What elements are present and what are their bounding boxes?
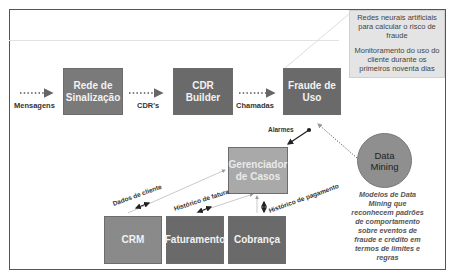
node-rede-sinalizacao: Rede de Sinalização [63,68,123,115]
label-alarmes: Alarmes [268,126,294,133]
double-arrow-dados [136,203,149,208]
note-data-mining: Modelos de Data Mining que reconhecem pa… [350,190,425,262]
node-cobranca: Cobrança [228,216,286,264]
node-faturamento: Faturamento [166,216,224,264]
note-connector [285,14,349,68]
node-crm: CRM [104,216,162,264]
label-mensagens: Mensagens [14,101,55,110]
node-fraude-de-uso: Fraude de Uso [283,68,341,115]
label-chamadas: Chamadas [236,101,274,110]
label-cdrs: CDR's [137,101,159,110]
note-redes-neurais: Redes neurais artificiais para calcular … [352,13,442,40]
data-mining-label: Data Mining [368,150,402,172]
node-cdr-builder: CDR Builder [173,68,233,115]
note-monitoramento: Monitoramento do uso do cliente durante … [352,46,442,73]
arrow-data-mining [318,124,357,158]
node-data-mining: Data Mining [357,133,412,188]
double-arrow-fatura [198,207,211,212]
node-gerenciador-de-casos: Gerenciador de Casos [228,147,288,194]
fraude-notes: Redes neurais artificiais para calcular … [349,10,445,78]
